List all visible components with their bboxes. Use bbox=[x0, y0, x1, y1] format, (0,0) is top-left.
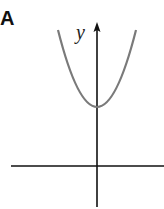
y-axis-label: y bbox=[76, 22, 85, 42]
